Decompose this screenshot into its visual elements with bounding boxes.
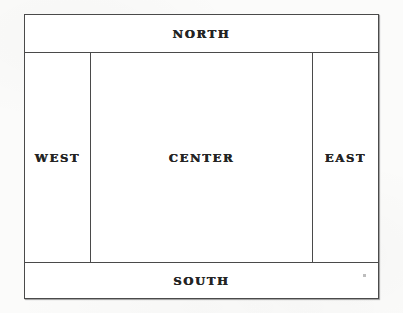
region-west-label: WEST (35, 151, 80, 165)
region-north-label: NORTH (173, 27, 231, 41)
region-west[interactable]: WEST (25, 53, 91, 262)
region-center-label: CENTER (169, 151, 235, 165)
region-center[interactable]: CENTER (91, 53, 313, 262)
region-east-label: EAST (325, 151, 366, 165)
scanned-page: NORTH WEST CENTER EAST SOUTH (0, 0, 403, 313)
region-north[interactable]: NORTH (25, 15, 378, 53)
region-south-label: SOUTH (173, 274, 229, 288)
region-south[interactable]: SOUTH (25, 262, 378, 298)
region-east[interactable]: EAST (313, 53, 378, 262)
borderlayout-diagram: NORTH WEST CENTER EAST SOUTH (24, 14, 379, 299)
